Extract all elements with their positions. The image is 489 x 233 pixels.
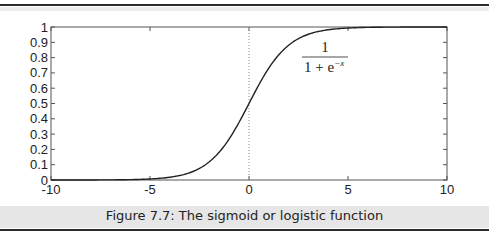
- formula-denominator: 1 + e−x: [304, 58, 344, 75]
- sigmoid-curve: [51, 27, 447, 180]
- x-tick-label: 10: [440, 182, 454, 197]
- y-tick-label: 0.9: [30, 35, 48, 50]
- formula-annotation: 1 1 + e−x: [302, 39, 348, 75]
- y-tick-label: 0.5: [30, 96, 48, 111]
- y-tick-label: 0.3: [30, 127, 48, 142]
- y-tick-label: 0.1: [30, 157, 48, 172]
- y-tick-label: 0.8: [30, 50, 48, 65]
- x-tick-label: 0: [245, 182, 252, 197]
- bottom-rule: [0, 229, 489, 231]
- x-tick-label: 5: [344, 182, 351, 197]
- y-tick-label: 0.6: [30, 81, 48, 96]
- y-tick-label: 0.7: [30, 65, 48, 80]
- y-tick-label: 0.4: [30, 111, 48, 126]
- y-tick-label: 0: [41, 173, 48, 188]
- formula-numerator: 1: [321, 39, 329, 55]
- y-tick-label: 1: [41, 20, 48, 35]
- ticks: -10-5051000.10.20.30.40.50.60.70.80.91: [30, 20, 454, 198]
- sigmoid-chart: -10-5051000.10.20.30.40.50.60.70.80.91 1…: [0, 0, 489, 233]
- x-tick-label: -5: [144, 182, 156, 197]
- figure-caption: Figure 7.7: The sigmoid or logistic func…: [0, 208, 489, 223]
- y-tick-label: 0.2: [30, 142, 48, 157]
